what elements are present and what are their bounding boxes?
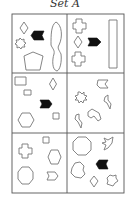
flag-pentagon-icon [97,80,108,88]
blob-icon [71,162,85,178]
small-rectangle-icon [24,90,31,95]
bird-arrow-icon [102,137,113,150]
black-chevron-arrow-icon [96,160,108,169]
notched-pentagon-icon [47,172,58,180]
lightning-bolt-icon [75,114,82,128]
lightning-bolt-icon [104,95,111,109]
starburst-icon [107,175,118,186]
black-chevron-arrow-icon [88,38,101,46]
pentagon-icon [24,52,43,70]
cell-r1c2 [72,19,117,68]
tall-wavy-oval-icon [51,22,61,71]
cell-r1c1 [15,22,61,71]
octagon-icon [73,137,91,155]
cell-r2c1 [15,77,59,127]
small-square-icon [43,137,49,143]
diamond-icon [90,176,98,187]
black-chevron-arrow-icon [40,100,52,108]
tall-rectangle-icon [109,20,117,68]
cell-r3c1 [18,137,61,184]
puzzle-board [0,0,130,199]
rectangle-icon [15,77,26,85]
starburst-icon [15,38,26,49]
diamond-icon [20,22,28,34]
diamond-icon [74,36,82,48]
black-chevron-arrow-icon [31,31,44,40]
starburst-icon [75,92,87,103]
cross-icon [73,19,86,33]
diamond-icon [50,78,57,90]
hexagon-icon [48,150,61,164]
bent-arrow-icon [88,109,101,121]
hexagon-icon [18,113,34,127]
cell-r2c2 [75,80,111,128]
cell-r3c2 [71,137,118,187]
cross-icon [72,52,85,66]
small-square-icon [53,113,59,119]
octagon-icon [18,167,33,184]
cross-icon [19,144,32,158]
